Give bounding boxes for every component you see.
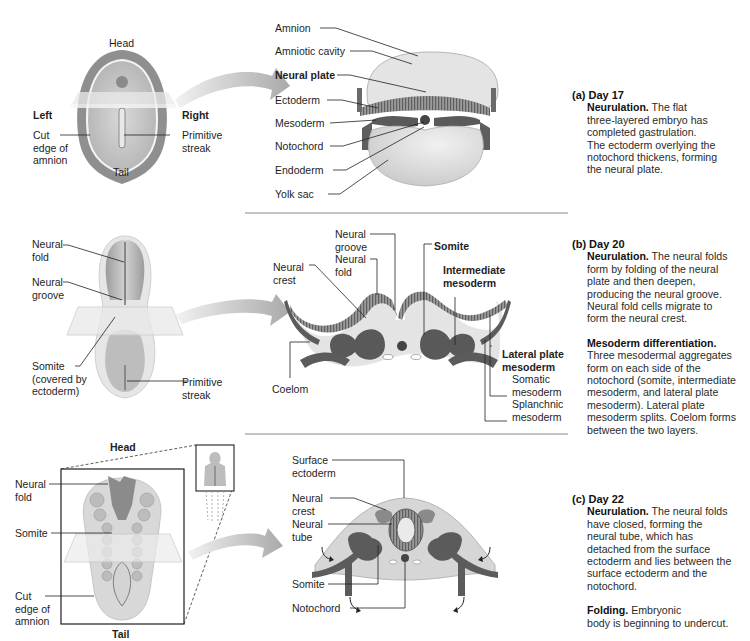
label-notochord-a: Notochord [275,140,323,153]
label-neural-groove-section: Neural groove [335,228,367,253]
label-surface-ectoderm: Surface ectoderm [292,454,336,479]
panel-c-embryo [61,445,234,624]
label-tail-c: Tail [112,628,129,641]
label-amnion: Amnion [275,22,311,35]
label-notochord-c: Notochord [292,602,340,615]
stage-label-a: (a) Day 17 [572,89,750,101]
label-neural-fold-c: Neural fold [15,478,46,503]
label-head-c: Head [110,441,136,454]
label-intermediate-mesoderm: Intermediate mesoderm [443,264,505,289]
label-neural-crest-c: Neural crest [292,492,323,517]
label-tail-a: Tail [113,166,129,179]
label-cut-edge-c: Cut edge of amnion [15,590,50,628]
description-b: (b) Day 20 Neurulation. The neural folds… [572,238,750,436]
arrow-a [175,68,290,108]
label-primitive-streak-a: Primitive streak [182,129,222,154]
label-somite-c: Somite [292,578,325,591]
label-neural-fold-b: Neural fold [32,238,63,263]
label-neural-fold-section: Neural fold [335,253,366,278]
label-amniotic-cavity: Amniotic cavity [275,45,345,58]
arrow-c [188,528,283,560]
label-neural-crest-b: Neural crest [273,261,304,286]
label-somite-b: Somite [434,240,469,253]
label-neural-plate: Neural plate [275,69,335,82]
label-yolk-sac: Yolk sac [275,188,314,201]
label-right: Right [182,109,209,122]
label-left: Left [33,109,52,122]
label-neural-groove-b: Neural groove [32,276,64,301]
label-lateral-plate-mesoderm: Lateral plate mesoderm [502,348,564,373]
label-somite-c-left: Somite [15,527,48,540]
description-a: (a) Day 17 Neurulation. The flat three-l… [572,89,750,176]
description-c: (c) Day 22 Neurulation. The neural folds… [572,493,750,629]
label-primitive-streak-b: Primitive streak [182,376,222,401]
label-neural-tube: Neural tube [292,518,323,543]
arrow-b [175,294,290,326]
stage-label-c: (c) Day 22 [572,493,750,505]
panel-b-section [284,292,511,368]
label-head-a: Head [109,37,134,50]
label-endoderm: Endoderm [275,164,323,177]
panel-a-section [357,52,498,186]
label-somite-covered: Somite (covered by ectoderm) [32,360,87,398]
embryo-figure: Head Tail Left Right Cut edge of amnion … [0,0,750,641]
label-somatic-mesoderm: Somatic mesoderm [512,373,562,398]
label-ectoderm: Ectoderm [275,94,320,107]
panel-a-disc [70,50,176,184]
label-cut-edge-a: Cut edge of amnion [33,129,68,167]
label-splanchnic-mesoderm: Splanchnic mesoderm [512,398,563,423]
label-mesoderm: Mesoderm [275,117,325,130]
stage-label-b: (b) Day 20 [572,238,750,250]
label-coelom: Coelom [272,383,308,396]
